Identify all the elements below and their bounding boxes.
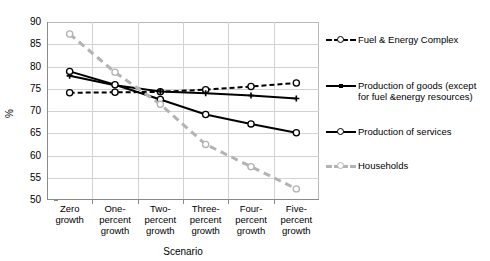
x-axis-tick-labels: Zero growthOne- percent growthTwo- perce… — [47, 203, 319, 247]
legend-marker-icon — [337, 128, 344, 135]
legend-label: Fuel & Energy Complex — [358, 34, 458, 45]
y-axis-tick-85: 85 — [30, 39, 41, 49]
data-point-marker — [203, 141, 209, 147]
y-axis-tick-80: 80 — [30, 62, 41, 72]
x-axis-tick-mark — [138, 200, 139, 204]
data-point-marker — [248, 92, 254, 98]
data-point-marker — [293, 130, 299, 136]
data-point-marker — [248, 121, 254, 127]
y-axis-tick-65: 65 — [30, 128, 41, 138]
data-point-marker — [67, 31, 73, 37]
data-point-marker — [293, 96, 299, 102]
y-axis-tick-mark — [54, 200, 58, 201]
legend-swatch-icon — [326, 160, 356, 172]
y-axis-label: % — [4, 109, 15, 118]
data-point-marker — [203, 111, 209, 117]
x-axis-tick-mark — [92, 200, 93, 204]
data-point-marker — [67, 68, 73, 74]
y-axis-tick-70: 70 — [30, 106, 41, 116]
x-axis-tick-mark — [183, 200, 184, 204]
data-point-marker — [112, 69, 118, 75]
data-point-marker — [112, 89, 118, 95]
series-3 — [67, 31, 300, 192]
x-axis-tick-mark — [274, 200, 275, 204]
data-point-marker — [67, 90, 73, 96]
data-point-marker — [293, 186, 299, 192]
x-axis-tick-label: Five- percent growth — [268, 203, 324, 236]
y-axis-tick-60: 60 — [30, 151, 41, 161]
y-axis-tick-55: 55 — [30, 173, 41, 183]
series-line — [70, 83, 297, 93]
legend-item[interactable]: Fuel & Energy Complex — [326, 34, 458, 46]
x-axis-label: Scenario — [47, 246, 319, 257]
legend-marker-icon — [339, 84, 343, 88]
data-point-marker — [293, 80, 299, 86]
legend-label: Households — [358, 160, 408, 171]
data-point-marker — [248, 164, 254, 170]
legend-swatch-icon — [326, 126, 356, 138]
series-1 — [67, 73, 300, 102]
data-point-marker — [157, 101, 163, 107]
legend-label: Production of goods (except for fuel &en… — [358, 80, 476, 102]
y-axis-tick-50: 50 — [30, 195, 41, 205]
data-point-marker — [248, 83, 254, 89]
legend-label: Production of services — [358, 126, 451, 137]
legend-marker-icon — [337, 36, 344, 43]
legend-swatch-icon — [326, 80, 356, 92]
series-line — [70, 76, 297, 99]
x-axis-tick-mark — [228, 200, 229, 204]
y-axis-tick-75: 75 — [30, 84, 41, 94]
legend-item[interactable]: Production of services — [326, 126, 451, 138]
legend-swatch-icon — [326, 34, 356, 46]
legend-item[interactable]: Households — [326, 160, 408, 172]
series-layer — [47, 22, 319, 200]
data-point-marker — [112, 82, 118, 88]
y-axis-tick-90: 90 — [30, 17, 41, 27]
legend-marker-icon — [337, 162, 344, 169]
series-line — [70, 34, 297, 189]
legend-item[interactable]: Production of goods (except for fuel &en… — [326, 80, 476, 102]
line-chart: 505560657075808590 % Zero growthOne- per… — [0, 0, 490, 261]
plot-area — [47, 22, 319, 200]
